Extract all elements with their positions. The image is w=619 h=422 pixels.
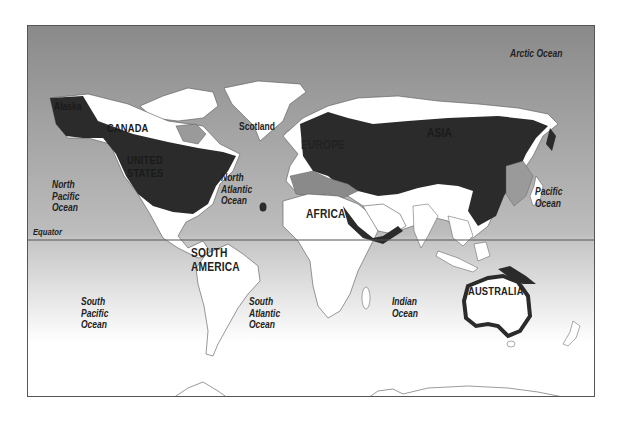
label-europe: EUROPE: [301, 139, 345, 153]
label-australia: AUSTRALIA: [468, 285, 524, 298]
atlantic-island: [260, 203, 267, 212]
madagascar: [362, 287, 370, 309]
label-pacific-ocean: Pacific Ocean: [535, 186, 562, 209]
label-scotland: Scotland: [239, 121, 275, 133]
label-asia: ASIA: [427, 127, 452, 141]
label-united-states: UNITED STATES: [127, 154, 164, 179]
label-south-america: SOUTH AMERICA: [191, 247, 240, 275]
label-canada: CANADA: [107, 122, 149, 135]
label-north-atlantic-ocean: North Atlantic Ocean: [221, 172, 252, 207]
label-alaska: Alaska: [54, 101, 81, 113]
world-map: Equator Arctic Ocean North Pacific Ocean…: [27, 25, 595, 397]
label-indian-ocean: Indian Ocean: [392, 296, 418, 319]
tasmania: [507, 341, 515, 347]
label-south-atlantic-ocean: South Atlantic Ocean: [249, 296, 280, 331]
label-south-pacific-ocean: South Pacific Ocean: [81, 296, 108, 331]
label-africa: AFRICA: [306, 208, 346, 222]
label-arctic-ocean: Arctic Ocean: [510, 48, 562, 60]
equator-label: Equator: [33, 227, 62, 237]
label-north-pacific-ocean: North Pacific Ocean: [52, 179, 79, 214]
